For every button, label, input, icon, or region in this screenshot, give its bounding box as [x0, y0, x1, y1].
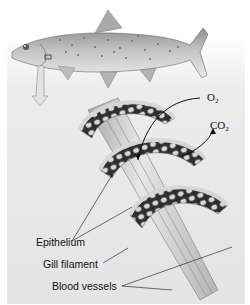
co2-label: CO2 — [210, 120, 229, 133]
gill-diagram — [0, 0, 250, 305]
epithelium-label: Epithelium — [36, 237, 85, 248]
gill-filament-label: Gill filament — [43, 259, 98, 270]
blood-vessels-label: Blood vessels — [52, 281, 117, 292]
gill-filament-illustration — [80, 98, 228, 300]
fish-illustration — [12, 10, 208, 106]
o2-label: O2 — [207, 92, 218, 105]
